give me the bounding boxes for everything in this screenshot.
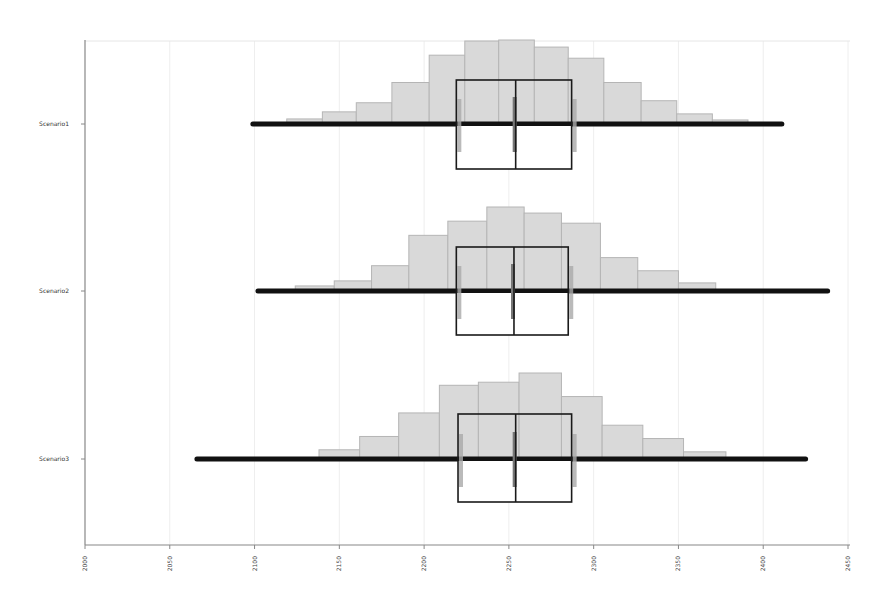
category-label: Scenario2 bbox=[39, 287, 69, 294]
category-label: Scenario3 bbox=[39, 455, 69, 462]
x-axis-ticks: 2000205021002150220022502300235024002450 bbox=[81, 545, 851, 571]
histogram-bar bbox=[641, 101, 677, 124]
histogram-bar bbox=[439, 385, 478, 459]
histogram-bar bbox=[487, 207, 524, 291]
series-scenario1: Scenario1 bbox=[39, 40, 782, 169]
histogram-bar bbox=[409, 235, 448, 291]
series-scenario3: Scenario3 bbox=[39, 373, 806, 502]
x-tick-label: 2150 bbox=[335, 556, 342, 571]
histogram-bar bbox=[448, 221, 487, 291]
histogram-bar bbox=[638, 271, 679, 291]
series-group: Scenario1Scenario2Scenario3 bbox=[39, 40, 828, 502]
histogram-bar bbox=[465, 41, 499, 124]
histogram-bar bbox=[399, 413, 440, 459]
chart-canvas: 2000205021002150220022502300235024002450… bbox=[0, 0, 893, 605]
x-tick-label: 2350 bbox=[674, 556, 681, 571]
series-scenario2: Scenario2 bbox=[39, 207, 828, 335]
histogram-bar bbox=[534, 47, 568, 124]
histogram-bar bbox=[604, 83, 641, 124]
histogram-bar bbox=[643, 439, 684, 459]
histogram-bar bbox=[519, 373, 561, 459]
histogram-bar bbox=[561, 397, 602, 459]
x-tick-label: 2450 bbox=[844, 556, 851, 571]
category-label: Scenario1 bbox=[39, 120, 69, 127]
histogram-bar bbox=[600, 258, 637, 291]
histogram-bar bbox=[392, 83, 429, 124]
x-tick-label: 2250 bbox=[505, 556, 512, 571]
histogram-bar bbox=[602, 425, 643, 459]
histogram-bar bbox=[360, 436, 399, 459]
histogram-bar bbox=[561, 223, 600, 291]
x-tick-label: 2000 bbox=[81, 556, 88, 571]
x-tick-label: 2300 bbox=[590, 556, 597, 571]
x-tick-label: 2200 bbox=[420, 556, 427, 571]
histogram-bar bbox=[356, 103, 392, 124]
x-tick-label: 2100 bbox=[251, 556, 258, 571]
x-tick-label: 2400 bbox=[759, 556, 766, 571]
x-tick-label: 2050 bbox=[166, 556, 173, 571]
histogram-bar bbox=[524, 213, 561, 291]
histogram-bar bbox=[372, 266, 409, 291]
